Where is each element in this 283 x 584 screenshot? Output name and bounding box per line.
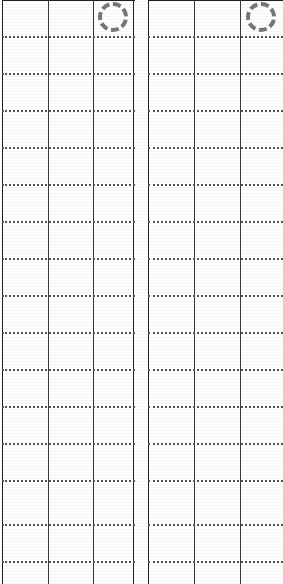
- row-rule: [2, 406, 135, 408]
- row-rule: [2, 480, 135, 482]
- column-rule: [240, 0, 241, 584]
- column-rule: [48, 0, 49, 584]
- row-rule: [148, 443, 283, 445]
- column-rule: [148, 0, 149, 584]
- row-rule: [148, 524, 283, 526]
- row-rule: [2, 110, 135, 112]
- row-rule: [148, 258, 283, 260]
- row-rule: [2, 258, 135, 260]
- row-rule: [148, 110, 283, 112]
- row-rule: [2, 332, 135, 334]
- row-rule: [148, 184, 283, 186]
- row-rule: [2, 295, 135, 297]
- row-rule: [148, 332, 283, 334]
- column-rule: [2, 0, 3, 584]
- top-rule-left: [2, 0, 135, 1]
- ruled-panel-right: [148, 0, 283, 584]
- row-rule: [2, 147, 135, 149]
- row-rule: [2, 73, 135, 75]
- row-rule: [2, 561, 135, 563]
- row-rule: [148, 36, 283, 38]
- column-rule: [133, 0, 134, 584]
- row-rule: [2, 184, 135, 186]
- row-rule: [2, 369, 135, 371]
- row-rule: [148, 369, 283, 371]
- row-rule: [2, 524, 135, 526]
- row-rule: [2, 443, 135, 445]
- dashed-circle-mark-right: [246, 2, 276, 32]
- row-rule: [148, 295, 283, 297]
- panel-paper-right: [148, 0, 283, 584]
- row-rule: [148, 406, 283, 408]
- scanned-page: [0, 0, 283, 584]
- column-rule: [93, 0, 94, 584]
- row-rule: [148, 480, 283, 482]
- row-rule: [2, 36, 135, 38]
- ruled-panel-left: [2, 0, 135, 584]
- row-rule: [148, 147, 283, 149]
- top-rule-right: [148, 0, 283, 1]
- panel-paper-left: [2, 0, 135, 584]
- row-rule: [148, 221, 283, 223]
- row-rule: [148, 73, 283, 75]
- column-rule: [194, 0, 195, 584]
- row-rule: [2, 221, 135, 223]
- dashed-circle-mark-left: [98, 2, 128, 32]
- row-rule: [148, 561, 283, 563]
